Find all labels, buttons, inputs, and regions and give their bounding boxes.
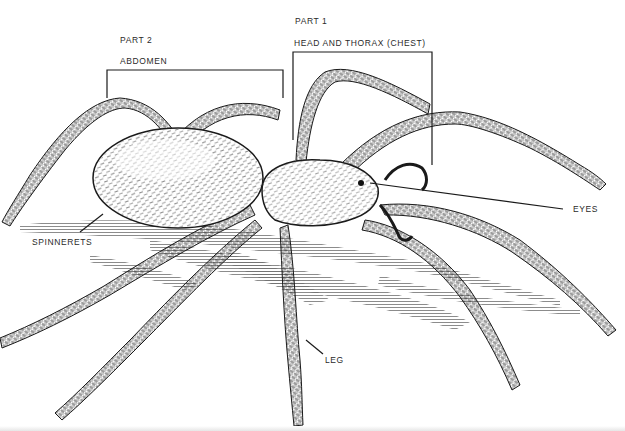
spider-illustration [0,0,625,431]
abdomen-label: ABDOMEN [120,57,167,66]
part1-label: PART 1 [295,17,327,26]
eyes-label: EYES [573,205,598,214]
part2-label: PART 2 [120,36,152,45]
bottom-edge [0,426,625,431]
spider-diagram: PART 1 HEAD AND THORAX (CHEST) PART 2 AB… [0,0,625,431]
abdomen-bracket [107,70,283,98]
leg-label: LEG [325,356,344,365]
leg-leader [306,340,323,354]
spinnerets-label: SPINNERETS [32,238,92,247]
head-thorax-label: HEAD AND THORAX (CHEST) [294,39,426,48]
eye-dot [358,180,364,186]
